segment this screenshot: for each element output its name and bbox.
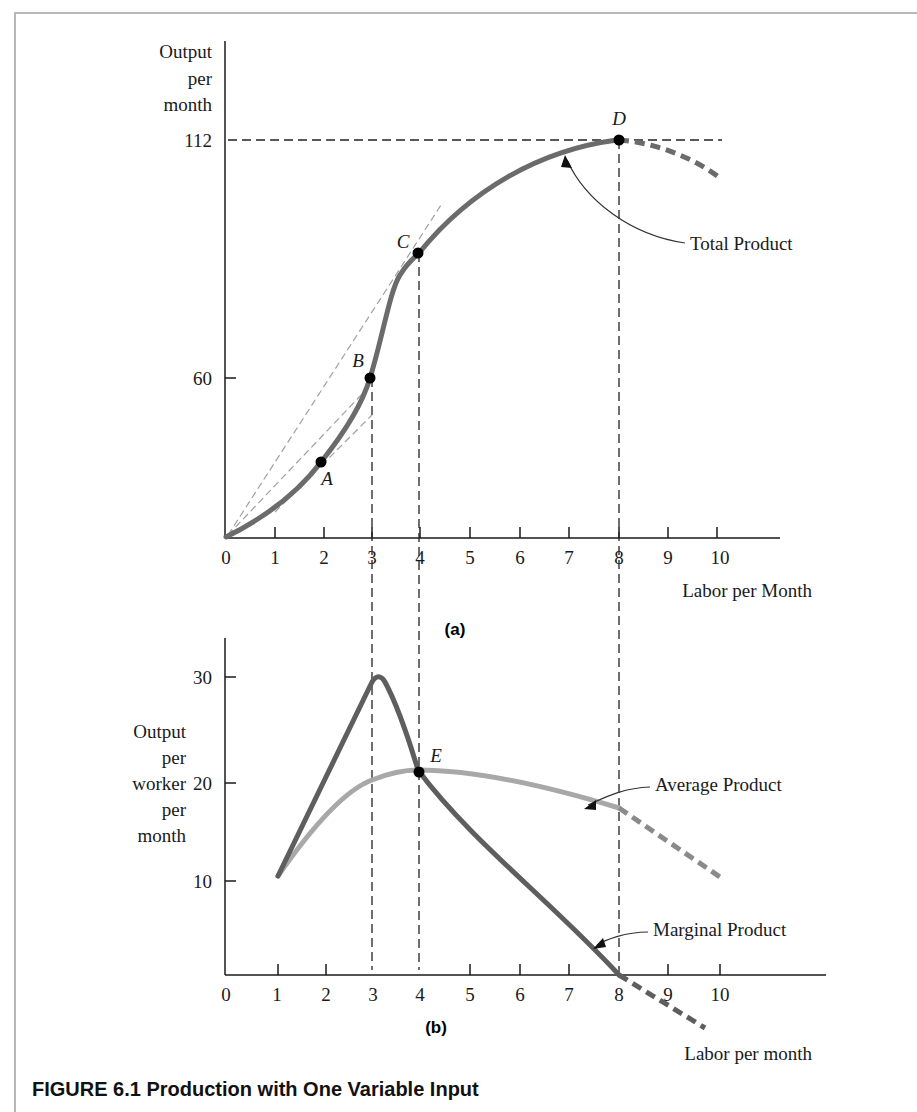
point-b — [365, 373, 376, 384]
svg-text:5: 5 — [465, 547, 475, 568]
point-e — [414, 767, 425, 778]
panel-a-y-tick-label-60: 60 — [193, 368, 212, 389]
svg-text:4: 4 — [415, 984, 425, 1005]
point-a — [316, 457, 327, 468]
svg-text:2: 2 — [321, 984, 331, 1005]
panel-b-x-label: Labor per month — [684, 1043, 812, 1064]
point-d-label: D — [611, 108, 626, 129]
panel-b-y-ticks — [225, 677, 236, 881]
average-product-curve-dashed — [619, 808, 720, 877]
panel-b-y-label-line3: worker — [132, 773, 186, 794]
svg-text:3: 3 — [368, 984, 378, 1005]
svg-text:4: 4 — [415, 547, 425, 568]
marginal-product-label: Marginal Product — [653, 919, 787, 940]
svg-text:10: 10 — [711, 547, 730, 568]
svg-text:7: 7 — [564, 984, 574, 1005]
panel-b-y-tick-label-10: 10 — [193, 871, 212, 892]
average-product-label: Average Product — [655, 774, 783, 795]
panel-b-y-label-line4: per — [162, 799, 187, 820]
svg-text:9: 9 — [663, 547, 673, 568]
panel-b-y-tick-label-30: 30 — [193, 667, 212, 688]
total-product-arrow-icon — [561, 155, 572, 168]
average-product-curve — [278, 770, 619, 876]
panel-a-y-label-line3: month — [163, 94, 212, 115]
svg-text:2: 2 — [319, 547, 329, 568]
svg-text:1: 1 — [270, 547, 280, 568]
svg-text:1: 1 — [272, 984, 282, 1005]
point-d — [614, 135, 625, 146]
svg-text:8: 8 — [614, 984, 624, 1005]
svg-text:7: 7 — [564, 547, 574, 568]
panel-a-y-label-line2: per — [188, 68, 213, 89]
panel-b-label: (b) — [425, 1018, 447, 1037]
panel-a: Output per month 60 112 0 1 2 3 4 — [159, 41, 812, 975]
point-e-label: E — [429, 745, 442, 766]
svg-text:0: 0 — [221, 547, 231, 568]
point-c — [413, 248, 424, 259]
svg-text:6: 6 — [515, 547, 525, 568]
panel-a-x-label: Labor per Month — [682, 580, 812, 601]
svg-text:6: 6 — [515, 984, 525, 1005]
panel-b-y-label-line2: per — [162, 747, 187, 768]
marginal-product-curve — [278, 677, 619, 975]
point-c-label: C — [397, 231, 410, 252]
panel-a-y-tick-label-112: 112 — [184, 130, 212, 151]
figure-caption: FIGURE 6.1 Production with One Variable … — [32, 1078, 479, 1101]
svg-text:5: 5 — [465, 984, 475, 1005]
total-product-curve — [226, 140, 617, 537]
svg-text:0: 0 — [221, 984, 231, 1005]
total-product-label: Total Product — [690, 233, 793, 254]
panel-b-y-label-line1: Output — [133, 721, 187, 742]
panel-a-tangent-lines — [228, 205, 441, 535]
panel-a-label: (a) — [445, 620, 466, 639]
panel-a-guide-lines — [228, 140, 722, 975]
marginal-product-curve-dashed — [619, 975, 705, 1028]
marginal-product-arrow-icon — [593, 938, 606, 949]
total-product-leader-line — [567, 160, 685, 243]
panel-a-x-ticks — [275, 527, 717, 538]
panel-b-y-label-line5: month — [137, 825, 186, 846]
panel-a-y-label-line1: Output — [159, 41, 213, 62]
svg-text:10: 10 — [711, 984, 730, 1005]
panel-b-y-tick-label-20: 20 — [193, 773, 212, 794]
panel-b: Output per worker per month 10 20 30 0 — [132, 638, 826, 1064]
point-b-label: B — [352, 350, 364, 371]
panel-a-x-tick-labels: 0 1 2 3 4 5 6 7 8 9 10 — [221, 547, 729, 568]
total-product-curve-dashed — [619, 140, 720, 178]
panel-b-x-ticks — [278, 964, 720, 975]
point-a-label: A — [319, 468, 333, 489]
